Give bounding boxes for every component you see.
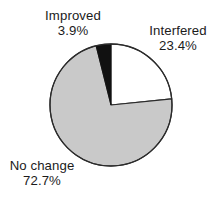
pie-label-no-change-percent: 72.7% xyxy=(3,174,81,188)
pie-chart-figure: Improved 3.9% Interfered 23.4% No change… xyxy=(0,0,217,200)
pie-label-improved: Improved 3.9% xyxy=(0,9,146,38)
pie-label-interfered-name: Interfered xyxy=(139,24,217,38)
pie-label-no-change-name: No change xyxy=(3,159,81,173)
pie-label-improved-percent: 3.9% xyxy=(0,24,146,38)
pie-label-no-change: No change 72.7% xyxy=(3,159,81,188)
pie-label-interfered: Interfered 23.4% xyxy=(139,24,217,53)
pie-label-improved-name: Improved xyxy=(0,9,146,23)
pie-slice-interfered xyxy=(111,44,172,105)
pie-label-interfered-percent: 23.4% xyxy=(139,39,217,53)
